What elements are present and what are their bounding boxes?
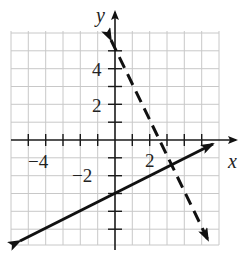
coordinate-plane: y x 4 2 −4 −2 2: [0, 0, 247, 254]
axes: [11, 12, 236, 250]
tick-label-y-neg2: −2: [72, 165, 92, 186]
tick-label-y-4: 4: [92, 59, 102, 80]
tick-label-x-2: 2: [145, 150, 155, 171]
x-axis-label: x: [227, 150, 237, 172]
tick-label-y-2: 2: [92, 95, 102, 116]
tick-label-x-neg4: −4: [28, 151, 49, 172]
y-axis-label: y: [94, 4, 105, 27]
